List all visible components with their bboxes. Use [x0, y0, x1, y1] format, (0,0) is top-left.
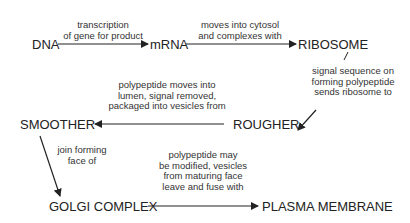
- node-ribosome: RIBOSOME: [298, 38, 368, 51]
- label-rougher-to-smoother: polypeptide moves into lumen, signal rem…: [100, 80, 234, 112]
- label-ribosome-to-rougher: signal sequence on forming polypeptide s…: [300, 66, 406, 98]
- label-dna-to-mrna: transcription of gene for product: [58, 20, 148, 41]
- label-golgi-to-plasma: polypeptide may be modified, vesicles fr…: [150, 150, 256, 192]
- label-smoother-to-golgi: join forming face of: [52, 145, 112, 166]
- node-smoother: SMOOTHER: [20, 118, 95, 131]
- node-golgi-complex: GOLGI COMPLEX: [49, 200, 157, 213]
- label-mrna-to-ribosome: moves into cytosol and complexes with: [192, 20, 288, 41]
- node-rougher: ROUGHER: [233, 118, 299, 131]
- arrow-label-to-rougher: [298, 110, 316, 130]
- node-mrna: mRNA: [150, 38, 188, 51]
- node-dna: DNA: [32, 38, 59, 51]
- node-plasma-membrane: PLASMA MEMBRANE: [262, 200, 393, 213]
- connector-ribosome-to-label: [344, 52, 348, 60]
- concept-map: DNA mRNA RIBOSOME ROUGHER SMOOTHER GOLGI…: [0, 0, 410, 223]
